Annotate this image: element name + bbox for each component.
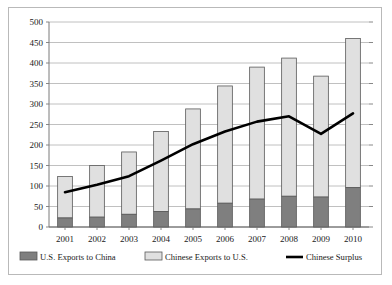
x-axis-tick-label: 2009: [312, 234, 331, 244]
x-axis-tick-label: 2002: [88, 234, 106, 244]
y-axis-tick-label: 0: [39, 222, 44, 232]
bar-segment-chinese-exports[interactable]: [218, 86, 233, 203]
y-axis-tick-label: 250: [30, 120, 44, 130]
legend-swatch-chinese-exports: [145, 252, 162, 260]
bar-segment-chinese-exports[interactable]: [282, 58, 297, 196]
bar-segment-chinese-exports[interactable]: [90, 166, 105, 218]
y-axis-tick-label: 400: [30, 58, 44, 68]
bar-segment-us-exports[interactable]: [250, 199, 265, 227]
bar-segment-us-exports[interactable]: [122, 214, 137, 227]
x-axis-tick-label: 2007: [248, 234, 267, 244]
y-axis-tick-label: 200: [30, 140, 44, 150]
chart-canvas: 0501001502002503003504004505002001200220…: [9, 8, 383, 276]
y-axis-tick-label: 350: [30, 79, 44, 89]
stacked-bar-chart: 0501001502002503003504004505002001200220…: [9, 8, 383, 276]
bar-segment-us-exports[interactable]: [154, 211, 169, 227]
legend-swatch-us-exports: [20, 252, 37, 260]
x-axis-tick-label: 2010: [344, 234, 363, 244]
y-axis-tick-label: 450: [30, 38, 44, 48]
chinese-surplus-line[interactable]: [65, 113, 353, 192]
bar-segment-us-exports[interactable]: [186, 209, 201, 227]
x-axis-tick-label: 2005: [184, 234, 203, 244]
bar-segment-chinese-exports[interactable]: [154, 131, 169, 211]
x-axis-tick-label: 2008: [280, 234, 299, 244]
y-axis-tick-label: 100: [30, 181, 44, 191]
x-axis-tick-label: 2003: [120, 234, 139, 244]
x-axis-tick-label: 2006: [216, 234, 235, 244]
bar-segment-us-exports[interactable]: [314, 197, 329, 227]
y-axis-tick-label: 300: [30, 99, 44, 109]
y-axis-tick-label: 150: [30, 161, 44, 171]
x-axis-tick-label: 2004: [152, 234, 171, 244]
bar-segment-us-exports[interactable]: [90, 217, 105, 227]
bar-group: [58, 38, 361, 227]
chart-legend: U.S. Exports to ChinaChinese Exports to …: [20, 252, 363, 262]
bar-segment-chinese-exports[interactable]: [58, 177, 73, 218]
legend-label: U.S. Exports to China: [40, 252, 116, 262]
chart-frame: 0501001502002503003504004505002001200220…: [8, 7, 382, 275]
bar-segment-chinese-exports[interactable]: [314, 76, 329, 197]
bar-segment-us-exports[interactable]: [58, 218, 73, 227]
bar-segment-chinese-exports[interactable]: [122, 152, 137, 214]
bar-segment-us-exports[interactable]: [282, 196, 297, 227]
y-axis-tick-label: 50: [34, 202, 44, 212]
bar-segment-chinese-exports[interactable]: [186, 109, 201, 209]
y-axis-tick-label: 500: [30, 17, 44, 27]
bar-segment-us-exports[interactable]: [346, 188, 361, 227]
bar-segment-chinese-exports[interactable]: [250, 67, 265, 199]
x-axis-tick-label: 2001: [56, 234, 74, 244]
legend-label: Chinese Exports to U.S.: [165, 252, 248, 262]
legend-label: Chinese Surplus: [306, 252, 363, 262]
bar-segment-us-exports[interactable]: [218, 203, 233, 227]
